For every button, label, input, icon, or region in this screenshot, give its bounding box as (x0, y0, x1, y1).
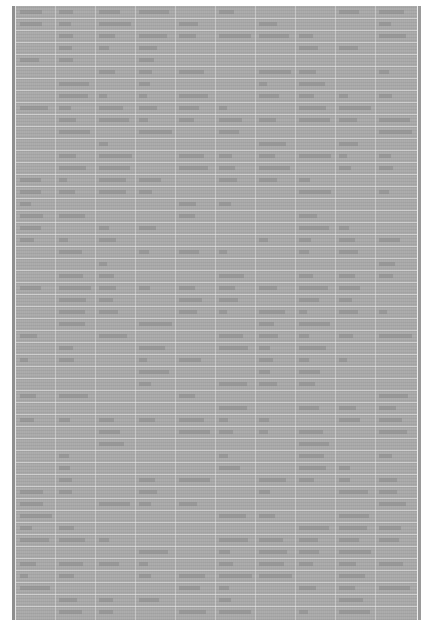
illegible-cell-text (299, 322, 330, 326)
illegible-cell-text (299, 94, 314, 98)
illegible-cell-text (219, 274, 244, 278)
illegible-cell-text (139, 382, 151, 386)
illegible-cell-text (219, 406, 247, 410)
illegible-cell-text (299, 214, 317, 218)
illegible-cell-text (179, 418, 204, 422)
illegible-cell-text (259, 238, 268, 242)
illegible-cell-text (139, 190, 152, 194)
illegible-cell-text (339, 10, 359, 14)
illegible-cell-text (379, 406, 396, 410)
illegible-cell-text (20, 538, 49, 542)
illegible-cell-text (299, 106, 326, 110)
illegible-cell-text (299, 538, 318, 542)
illegible-cell-text (299, 430, 323, 434)
illegible-cell-text (139, 370, 169, 374)
illegible-cell-text (179, 502, 197, 506)
illegible-cell-text (179, 118, 194, 122)
grid-row-line (16, 234, 417, 235)
illegible-cell-text (59, 10, 73, 14)
illegible-cell-text (299, 274, 313, 278)
illegible-cell-text (339, 478, 350, 482)
illegible-cell-text (20, 418, 34, 422)
illegible-cell-text (59, 118, 76, 122)
illegible-cell-text (20, 286, 41, 290)
illegible-cell-text (139, 10, 169, 14)
illegible-cell-text (219, 298, 238, 302)
illegible-cell-text (59, 238, 68, 242)
grid-row-line (16, 162, 417, 163)
illegible-cell-text (20, 238, 34, 242)
illegible-cell-text (299, 370, 320, 374)
illegible-cell-text (179, 310, 197, 314)
illegible-cell-text (59, 310, 85, 314)
illegible-cell-text (259, 70, 291, 74)
illegible-cell-text (299, 562, 313, 566)
grid-row-line (16, 66, 417, 67)
illegible-cell-text (339, 526, 367, 530)
illegible-cell-text (219, 382, 247, 386)
illegible-cell-text (139, 286, 150, 290)
grid-column-line (175, 6, 176, 620)
grid-row-line (16, 342, 417, 343)
illegible-cell-text (99, 310, 118, 314)
illegible-cell-text (20, 514, 52, 518)
illegible-cell-text (339, 106, 371, 110)
illegible-cell-text (299, 82, 325, 86)
illegible-cell-text (219, 34, 251, 38)
illegible-cell-text (259, 574, 292, 578)
grid-row-line (16, 186, 417, 187)
illegible-cell-text (339, 598, 363, 602)
grid-row-line (16, 78, 417, 79)
illegible-cell-text (259, 514, 275, 518)
grid-column-line (255, 6, 256, 620)
illegible-cell-text (299, 442, 329, 446)
illegible-cell-text (339, 118, 357, 122)
illegible-cell-text (379, 274, 393, 278)
illegible-cell-text (139, 34, 167, 38)
illegible-cell-text (179, 586, 200, 590)
illegible-cell-text (299, 382, 315, 386)
illegible-cell-text (20, 394, 36, 398)
illegible-cell-text (299, 406, 319, 410)
illegible-cell-text (299, 34, 313, 38)
illegible-cell-text (99, 154, 132, 158)
grid-row-line (16, 438, 417, 439)
grid-row-line (16, 246, 417, 247)
illegible-cell-text (99, 190, 126, 194)
illegible-cell-text (99, 274, 114, 278)
illegible-cell-text (59, 298, 86, 302)
grid-row-line (16, 594, 417, 595)
illegible-cell-text (99, 430, 120, 434)
illegible-cell-text (259, 34, 289, 38)
illegible-cell-text (219, 586, 229, 590)
grid-column-line (55, 6, 56, 620)
grid-row-line (16, 426, 417, 427)
illegible-cell-text (20, 502, 43, 506)
illegible-cell-text (20, 574, 28, 578)
illegible-cell-text (59, 466, 70, 470)
illegible-cell-text (339, 298, 352, 302)
illegible-cell-text (99, 286, 116, 290)
grid-row-line (16, 306, 417, 307)
illegible-cell-text (299, 310, 307, 314)
illegible-cell-text (179, 106, 199, 110)
illegible-cell-text (219, 166, 235, 170)
illegible-cell-text (99, 610, 113, 614)
illegible-cell-text (339, 250, 358, 254)
illegible-cell-text (59, 394, 88, 398)
illegible-cell-text (339, 274, 355, 278)
grid-row-line (16, 462, 417, 463)
grid-row-line (16, 390, 417, 391)
illegible-cell-text (139, 46, 157, 50)
illegible-cell-text (379, 562, 403, 566)
illegible-cell-text (339, 466, 350, 470)
illegible-cell-text (379, 334, 412, 338)
grid-row-line (16, 606, 417, 607)
illegible-cell-text (139, 346, 165, 350)
illegible-cell-text (339, 550, 371, 554)
illegible-cell-text (179, 202, 196, 206)
illegible-cell-text (99, 562, 119, 566)
grid-row-line (16, 198, 417, 199)
illegible-cell-text (299, 610, 308, 614)
illegible-cell-text (139, 322, 172, 326)
